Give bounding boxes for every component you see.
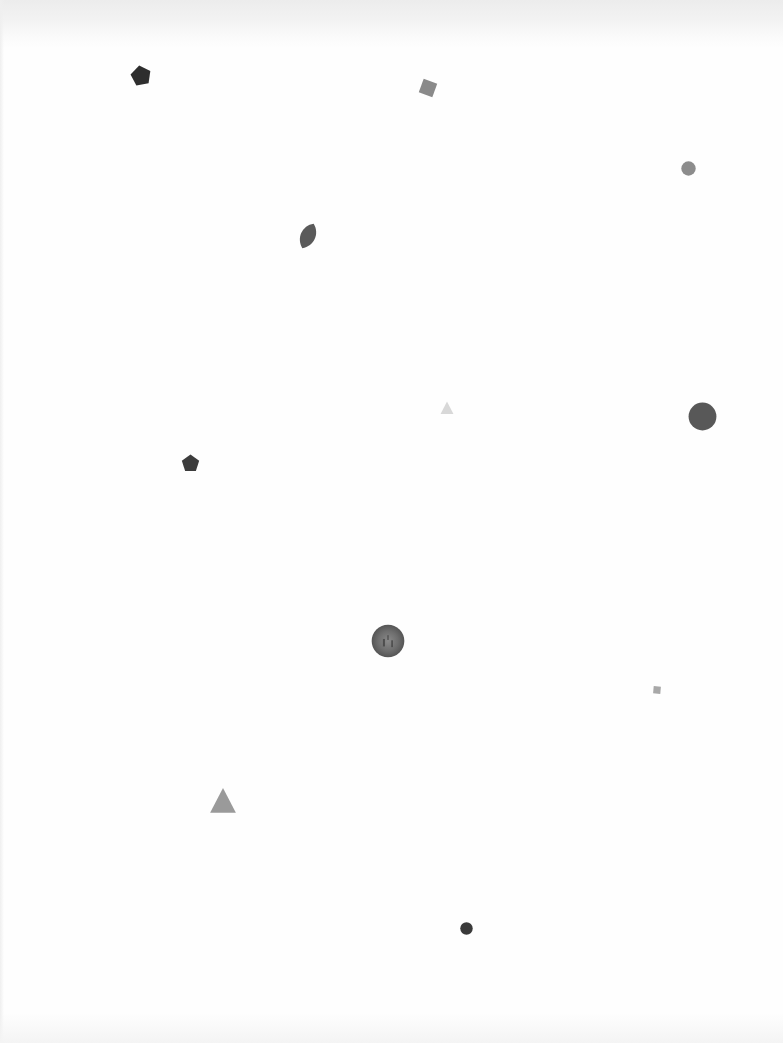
pentagon-shape [130,65,152,87]
scanned-page [0,0,783,1043]
circle-shape [460,922,473,935]
square-shape [418,78,438,98]
leaf-shape [294,222,322,250]
bottom-bleed-through [0,1013,783,1043]
triangle-shape [440,401,454,415]
square-shape [652,685,662,695]
triangle-shape [209,787,237,815]
top-bleed-through [0,0,783,48]
textured-circle-shape [371,624,405,658]
circle-shape [681,161,696,176]
pentagon-shape [181,454,200,473]
circle-shape [688,402,717,431]
scan-edge [0,0,4,1043]
